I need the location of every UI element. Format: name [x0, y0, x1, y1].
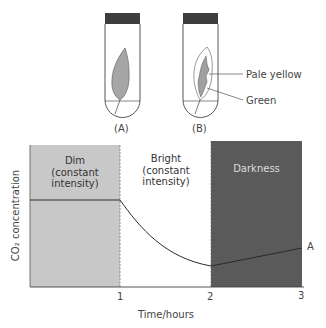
- green-pointer: [207, 88, 243, 100]
- x-tick-1: 1: [117, 291, 123, 302]
- green-label: Green: [246, 95, 276, 106]
- dim-label-line-1: Dim: [30, 155, 120, 167]
- x-tick-2: 2: [207, 291, 213, 302]
- pale-yellow-label: Pale yellow: [246, 69, 302, 80]
- bright-label: Bright (constant intensity): [121, 153, 211, 188]
- bright-label-line-2: (constant: [121, 165, 211, 177]
- tube-a-stopper: [105, 13, 140, 24]
- leaf-b-stalk: [195, 100, 200, 114]
- tube-b-stopper: [183, 13, 218, 24]
- dim-label-line-3: intensity): [30, 178, 120, 190]
- leaf-a-stalk: [115, 100, 120, 114]
- x-axis-label: Time/hours: [138, 309, 194, 320]
- y-axis-label: CO₂ concentration: [10, 161, 21, 271]
- x-tick-3: 3: [298, 290, 304, 301]
- tube-b-caption: (B): [192, 123, 207, 134]
- tube-a-caption: (A): [114, 123, 129, 134]
- bright-label-line-3: intensity): [121, 176, 211, 188]
- dim-label: Dim (constant intensity): [30, 155, 120, 190]
- leaf-a-icon: [112, 48, 129, 100]
- test-tube-b: [183, 13, 243, 118]
- test-tube-a: [105, 13, 140, 118]
- curve-end-label-a: A: [307, 241, 314, 252]
- darkness-label: Darkness: [211, 163, 302, 175]
- dim-label-line-2: (constant: [30, 167, 120, 179]
- bright-label-line-1: Bright: [121, 153, 211, 165]
